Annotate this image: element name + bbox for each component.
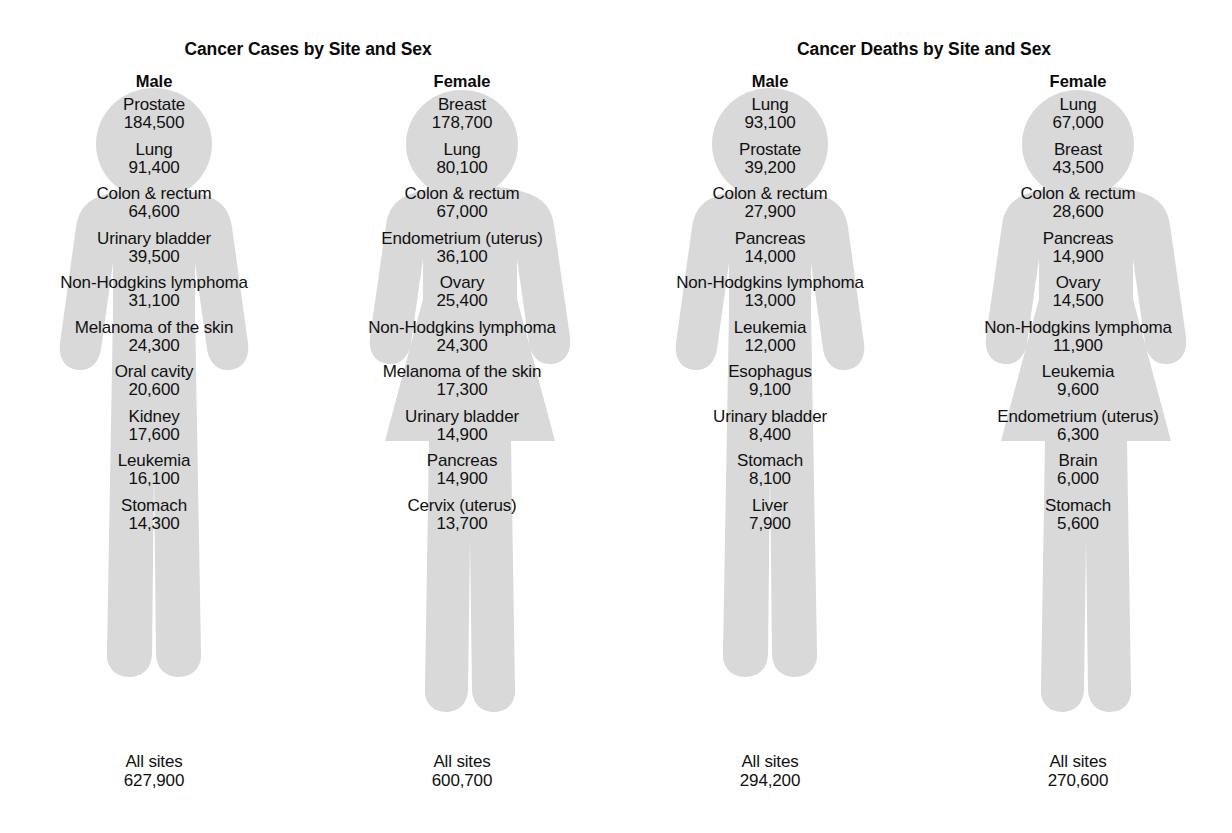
site-name: Kidney xyxy=(0,408,320,426)
site-name: Colon & rectum xyxy=(0,185,320,203)
site-value: 9,600 xyxy=(912,381,1232,399)
site-name: Melanoma of the skin xyxy=(0,319,320,337)
site-value: 8,400 xyxy=(604,426,936,444)
site-value: 24,300 xyxy=(0,337,320,355)
site-value: 80,100 xyxy=(296,159,628,177)
cancer-site-entry: Colon & rectum67,000 xyxy=(296,185,628,221)
site-name: Non-Hodgkins lymphoma xyxy=(296,319,628,337)
all-sites-total: All sites 270,600 xyxy=(924,752,1232,790)
site-value: 20,600 xyxy=(0,381,320,399)
panel-cancer-cases: Cancer Cases by Site and Sex Male Prosta… xyxy=(0,0,616,833)
site-value: 12,000 xyxy=(604,337,936,355)
site-name: Oral cavity xyxy=(0,363,320,381)
site-value: 17,300 xyxy=(296,381,628,399)
site-name: Lung xyxy=(604,96,936,114)
site-value: 67,000 xyxy=(912,114,1232,132)
site-name: Brain xyxy=(912,452,1232,470)
site-value: 31,100 xyxy=(0,292,320,310)
site-value: 8,100 xyxy=(604,470,936,488)
figure-deaths-female: Female Lung67,000Breast43,500Colon & rec… xyxy=(924,72,1232,812)
panel-title-deaths: Cancer Deaths by Site and Sex xyxy=(616,39,1232,60)
site-name: Prostate xyxy=(604,141,936,159)
site-value: 9,100 xyxy=(604,381,936,399)
cancer-site-entry: Endometrium (uterus)6,300 xyxy=(912,408,1232,444)
site-value: 6,000 xyxy=(912,470,1232,488)
figure-cases-female: Female Breast178,700Lung80,100Colon & re… xyxy=(308,72,616,812)
site-name: Pancreas xyxy=(296,452,628,470)
cancer-site-entry: Breast43,500 xyxy=(912,141,1232,177)
cancer-site-entry: Urinary bladder39,500 xyxy=(0,230,320,266)
site-value: 39,500 xyxy=(0,248,320,266)
site-value: 13,000 xyxy=(604,292,936,310)
site-value: 24,300 xyxy=(296,337,628,355)
site-value: 64,600 xyxy=(0,203,320,221)
cancer-site-entry: Colon & rectum27,900 xyxy=(604,185,936,221)
cancer-site-entry: Kidney17,600 xyxy=(0,408,320,444)
sex-label-male: Male xyxy=(0,72,308,91)
cancer-site-entry: Leukemia16,100 xyxy=(0,452,320,488)
site-value: 91,400 xyxy=(0,159,320,177)
all-sites-total: All sites 294,200 xyxy=(616,752,924,790)
figure-deaths-male: Male Lung93,100Prostate39,200Colon & rec… xyxy=(616,72,924,812)
site-value: 17,600 xyxy=(0,426,320,444)
site-value: 36,100 xyxy=(296,248,628,266)
site-name: Stomach xyxy=(604,452,936,470)
site-value: 14,900 xyxy=(296,470,628,488)
cancer-site-entry: Urinary bladder8,400 xyxy=(604,408,936,444)
sex-label-male: Male xyxy=(616,72,924,91)
site-name: Esophagus xyxy=(604,363,936,381)
total-value: 294,200 xyxy=(616,771,924,790)
total-value: 600,700 xyxy=(308,771,616,790)
cancer-site-entry: Colon & rectum64,600 xyxy=(0,185,320,221)
cancer-site-entry: Leukemia9,600 xyxy=(912,363,1232,399)
site-value: 13,700 xyxy=(296,515,628,533)
sex-label-female: Female xyxy=(308,72,616,91)
cancer-site-entry: Pancreas14,900 xyxy=(296,452,628,488)
site-name: Urinary bladder xyxy=(0,230,320,248)
entry-list: Breast178,700Lung80,100Colon & rectum67,… xyxy=(296,96,628,541)
cancer-site-entry: Breast178,700 xyxy=(296,96,628,132)
cancer-site-entry: Oral cavity20,600 xyxy=(0,363,320,399)
cancer-site-entry: Brain6,000 xyxy=(912,452,1232,488)
site-name: Ovary xyxy=(296,274,628,292)
site-value: 14,500 xyxy=(912,292,1232,310)
cancer-site-entry: Ovary14,500 xyxy=(912,274,1232,310)
cancer-site-entry: Pancreas14,000 xyxy=(604,230,936,266)
cancer-site-entry: Stomach8,100 xyxy=(604,452,936,488)
site-name: Colon & rectum xyxy=(296,185,628,203)
cancer-site-entry: Melanoma of the skin17,300 xyxy=(296,363,628,399)
cancer-site-entry: Melanoma of the skin24,300 xyxy=(0,319,320,355)
cancer-site-entry: Ovary25,400 xyxy=(296,274,628,310)
site-name: Stomach xyxy=(0,497,320,515)
site-name: Liver xyxy=(604,497,936,515)
cancer-site-entry: Non-Hodgkins lymphoma24,300 xyxy=(296,319,628,355)
site-name: Melanoma of the skin xyxy=(296,363,628,381)
cancer-site-entry: Prostate39,200 xyxy=(604,141,936,177)
site-name: Lung xyxy=(0,141,320,159)
total-value: 270,600 xyxy=(924,771,1232,790)
site-value: 178,700 xyxy=(296,114,628,132)
site-name: Pancreas xyxy=(912,230,1232,248)
site-name: Prostate xyxy=(0,96,320,114)
panel-cancer-deaths: Cancer Deaths by Site and Sex Male Lung9… xyxy=(616,0,1232,833)
site-name: Lung xyxy=(296,141,628,159)
cancer-site-entry: Colon & rectum28,600 xyxy=(912,185,1232,221)
site-value: 27,900 xyxy=(604,203,936,221)
cancer-site-entry: Stomach14,300 xyxy=(0,497,320,533)
total-label: All sites xyxy=(308,752,616,771)
site-name: Ovary xyxy=(912,274,1232,292)
site-name: Endometrium (uterus) xyxy=(296,230,628,248)
cancer-site-entry: Lung80,100 xyxy=(296,141,628,177)
site-name: Urinary bladder xyxy=(296,408,628,426)
site-name: Breast xyxy=(296,96,628,114)
site-name: Leukemia xyxy=(0,452,320,470)
cancer-site-entry: Pancreas14,900 xyxy=(912,230,1232,266)
site-value: 11,900 xyxy=(912,337,1232,355)
cancer-site-entry: Non-Hodgkins lymphoma31,100 xyxy=(0,274,320,310)
site-name: Colon & rectum xyxy=(604,185,936,203)
cancer-site-entry: Urinary bladder14,900 xyxy=(296,408,628,444)
site-value: 5,600 xyxy=(912,515,1232,533)
cancer-site-entry: Leukemia12,000 xyxy=(604,319,936,355)
figure-cases-male: Male Prostate184,500Lung91,400Colon & re… xyxy=(0,72,308,812)
site-name: Leukemia xyxy=(912,363,1232,381)
